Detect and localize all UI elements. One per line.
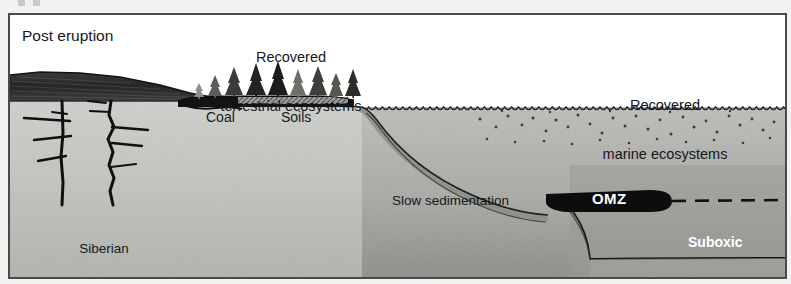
label-recovered-marine-line2: marine ecosystems <box>570 146 760 162</box>
label-recovered-terrestrial: Recovered terrestrial ecosystems <box>206 17 376 147</box>
label-suboxic: Suboxic <box>688 235 742 251</box>
label-recovered-marine: Recovered marine ecosystems <box>570 65 760 195</box>
label-recovered-terrestrial-line1: Recovered <box>206 49 376 65</box>
label-post-eruption: Post eruption <box>22 27 113 44</box>
label-slow-sedimentation: Slow sedimentation <box>392 193 509 208</box>
label-coal: Coal <box>206 110 235 126</box>
label-omz: OMZ <box>592 191 627 208</box>
label-recovered-marine-line1: Recovered <box>570 97 760 113</box>
label-siberian-line1: Siberian <box>18 241 190 256</box>
label-soils: Soils <box>281 110 311 126</box>
label-siberian-volcanic-centers: Siberian volcanic centers (inactive) <box>18 211 190 279</box>
figure-stage: Post eruption Recovered terrestrial ecos… <box>0 0 791 284</box>
crop-artifact-right <box>33 0 40 6</box>
crop-artifact-left <box>18 0 25 6</box>
cross-section-figure: Post eruption Recovered terrestrial ecos… <box>8 13 787 279</box>
